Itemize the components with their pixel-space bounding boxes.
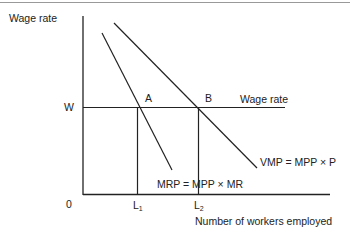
l2-label: L2 <box>194 200 204 212</box>
point-b-label: B <box>205 93 212 104</box>
l1-label: L1 <box>133 200 143 212</box>
vmp-label: VMP = MPP × P <box>260 157 336 168</box>
wage-line-label: Wage rate <box>240 94 288 105</box>
mrp-label: MRP = MPP × MR <box>157 179 243 190</box>
vmp-curve <box>114 23 257 168</box>
x-axis-label: Number of workers employed <box>195 216 332 227</box>
wage-level-label: W <box>64 102 74 113</box>
y-axis-label: Wage rate <box>9 13 57 24</box>
point-a-label: A <box>145 93 152 104</box>
diagram-canvas <box>0 0 350 234</box>
origin-label: 0 <box>66 199 72 210</box>
